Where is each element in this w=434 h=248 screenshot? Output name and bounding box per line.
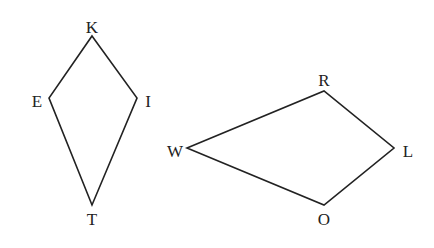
vertex-label-t: T [87, 210, 98, 229]
vertex-label-e: E [32, 92, 42, 111]
diagram-canvas: K I T E W R L O [0, 0, 434, 248]
kite-wrol-outline [187, 91, 394, 205]
vertex-label-k: K [86, 18, 99, 37]
kites-diagram: K I T E W R L O [0, 0, 434, 248]
vertex-label-r: R [318, 71, 330, 90]
vertex-label-l: L [403, 142, 413, 161]
vertex-label-w: W [167, 142, 184, 161]
vertex-label-o: O [318, 210, 330, 229]
kite-wrol-figure: W R L O [167, 71, 413, 229]
kite-kite-figure: K I T E [32, 18, 151, 229]
kite-kite-outline [49, 36, 137, 205]
vertex-label-i: I [145, 92, 151, 111]
